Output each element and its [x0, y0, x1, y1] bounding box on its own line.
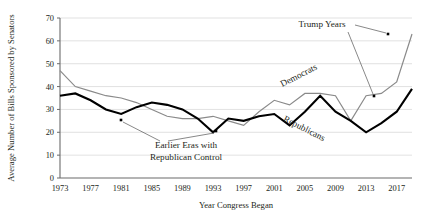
- earlier-eras-annotation-text: Republican Control: [150, 152, 223, 162]
- y-tick-label: 40: [46, 83, 54, 92]
- x-tick-label: 1973: [52, 184, 69, 193]
- earlier-eras-annotation-text: Earlier Eras with: [155, 140, 218, 150]
- y-tick-label: 0: [50, 174, 54, 183]
- y-tick-label: 10: [46, 151, 54, 160]
- annotation-marker-dot: [215, 130, 218, 133]
- y-axis-title: Average Number of Bills Sponsored by Sen…: [6, 14, 16, 182]
- annotation-marker-dot: [387, 33, 390, 36]
- annotation-marker-dot: [373, 95, 376, 98]
- x-tick-label: 1997: [235, 184, 252, 193]
- x-tick-label: 1977: [82, 184, 99, 193]
- annotation-layer: Earlier Eras withRepublican ControlTrump…: [120, 19, 390, 162]
- annotation-leader-line: [348, 32, 373, 94]
- x-tick-label: 2005: [296, 184, 313, 193]
- y-tick-label: 30: [46, 105, 54, 114]
- series-label-republicans: Republicans: [282, 114, 327, 144]
- line-chart: 010203040506070 197319771981198519891993…: [0, 0, 432, 218]
- annotation-leader-line: [355, 25, 386, 33]
- series-line-republicans: [60, 89, 412, 132]
- x-tick-label: 1985: [143, 184, 160, 193]
- y-tick-label: 50: [46, 60, 54, 69]
- chart-container: 010203040506070 197319771981198519891993…: [0, 0, 432, 218]
- x-tick-label: 2013: [358, 184, 375, 193]
- x-tick-label: 1993: [205, 184, 222, 193]
- x-tick-label: 1989: [174, 184, 191, 193]
- y-axis-tick-labels: 010203040506070: [46, 14, 60, 183]
- x-tick-label: 2001: [266, 184, 283, 193]
- y-tick-label: 70: [46, 14, 54, 23]
- data-series-group: [60, 34, 412, 132]
- x-axis-tick-labels: 1973197719811985198919931997200120052009…: [52, 184, 405, 193]
- y-tick-label: 20: [46, 128, 54, 137]
- axis-lines: [60, 18, 412, 178]
- series-label-layer: DemocratsRepublicans: [279, 62, 328, 144]
- annotation-leader-line: [123, 122, 160, 141]
- x-tick-label: 2009: [327, 184, 344, 193]
- x-tick-label: 2017: [388, 184, 405, 193]
- trump-years-annotation-text: Trump Years: [298, 19, 346, 29]
- series-label-democrats: Democrats: [279, 62, 319, 89]
- x-tick-label: 1981: [113, 184, 130, 193]
- gridlines: [60, 18, 412, 155]
- annotation-marker-dot: [120, 119, 123, 122]
- y-tick-label: 60: [46, 37, 54, 46]
- x-axis-title: Year Congress Began: [199, 200, 274, 210]
